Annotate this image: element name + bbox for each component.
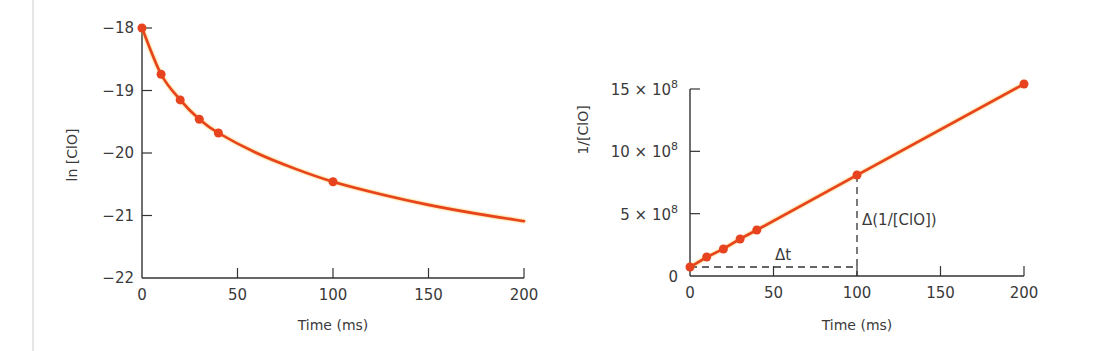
- chart2-y-axis-title: 1/[ClO]: [575, 105, 591, 154]
- chart1-data-point: [329, 177, 338, 186]
- chart1-x-tick-label: 50: [228, 286, 247, 304]
- delta-inverse-clo-annotation: Δ(1/[ClO]): [862, 211, 937, 229]
- chart1-x-ticks: 050100150200: [137, 268, 538, 304]
- chart1-y-tick-label: −19: [102, 82, 134, 100]
- chart2-data-point: [702, 253, 711, 262]
- chart2-x-ticks: 050100150200: [685, 266, 1038, 302]
- chart1-x-tick-label: 100: [319, 286, 348, 304]
- chart1-data-point: [214, 129, 223, 138]
- delta-t-annotation: Δt: [775, 246, 791, 264]
- chart1-y-tick-label: −22: [102, 269, 134, 287]
- chart2-data-point: [1020, 80, 1029, 89]
- chart1-axes: [142, 26, 524, 278]
- ln-clo-chart: 050100150200 −22−21−20−19−18 Time (ms) l…: [64, 19, 538, 333]
- chart1-x-tick-label: 150: [414, 286, 443, 304]
- chart2-y-tick-label: 0: [668, 268, 678, 286]
- chart1-data-point: [195, 115, 204, 124]
- chart2-x-tick-label: 200: [1010, 284, 1039, 302]
- chart1-curve: [142, 28, 524, 221]
- chart2-x-tick-label: 150: [926, 284, 955, 302]
- chart2-y-tick-label: 5 × 108: [620, 203, 678, 224]
- chart2-data-point: [686, 263, 695, 272]
- chart2-y-ticks: 05 × 10810 × 10815 × 108: [611, 78, 700, 286]
- chart1-y-tick-label: −18: [102, 19, 134, 37]
- chart1-data-point: [176, 95, 185, 104]
- chart2-x-tick-label: 100: [843, 284, 872, 302]
- chart1-data-points: [138, 24, 338, 187]
- chart2-y-tick-label: 10 × 108: [611, 140, 678, 161]
- chart1-y-ticks: −22−21−20−19−18: [102, 19, 152, 287]
- chart1-y-tick-label: −21: [102, 207, 134, 225]
- chart2-data-point: [719, 244, 728, 253]
- chart2-y-tick-label: 15 × 108: [611, 78, 678, 99]
- chart2-data-point: [752, 225, 761, 234]
- chart2-x-axis-title: Time (ms): [821, 317, 893, 333]
- chart2-x-tick-label: 0: [685, 284, 695, 302]
- chart2-x-tick-label: 50: [764, 284, 783, 302]
- chart2-data-point: [853, 171, 862, 180]
- chart2-data-point: [736, 234, 745, 243]
- chart1-y-axis-title: ln [ClO]: [64, 129, 80, 182]
- chart1-x-axis-title: Time (ms): [297, 317, 369, 333]
- chart1-curve-glow: [142, 28, 524, 221]
- chart1-data-point: [138, 24, 147, 33]
- chart1-x-tick-label: 200: [510, 286, 539, 304]
- chart1-x-tick-label: 0: [137, 286, 147, 304]
- chart1-y-tick-label: −20: [102, 144, 134, 162]
- inverse-clo-chart: 050100150200 05 × 10810 × 10815 × 108 Δt…: [575, 78, 1038, 333]
- chart1-data-point: [157, 70, 166, 79]
